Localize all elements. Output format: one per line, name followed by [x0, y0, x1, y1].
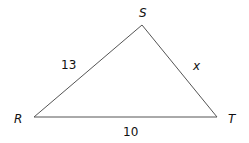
side-label-ST: x: [192, 59, 201, 73]
side-label-RS: 13: [61, 58, 76, 72]
vertex-label-T: T: [228, 112, 237, 126]
vertex-label-R: R: [14, 112, 22, 126]
triangle-diagram: S R T 13 x 10: [0, 0, 249, 143]
side-label-RT: 10: [123, 125, 138, 139]
vertex-label-S: S: [139, 6, 147, 20]
